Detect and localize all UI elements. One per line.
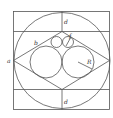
label-d-top: d — [64, 18, 68, 25]
small-left-circle — [51, 37, 62, 48]
left-inner-circle — [30, 46, 62, 78]
label-d-bottom: d — [64, 98, 68, 105]
geometry-diagram: a b d d f R — [0, 0, 113, 118]
label-R: R — [86, 58, 92, 65]
label-b: b — [34, 39, 38, 46]
label-a: a — [7, 57, 11, 64]
